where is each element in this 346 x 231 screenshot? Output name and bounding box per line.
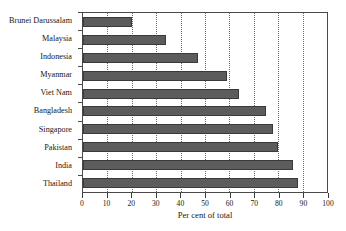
bar xyxy=(83,142,278,152)
bar-row xyxy=(83,67,327,85)
category-label: Malaysia xyxy=(0,30,76,48)
bar-row xyxy=(83,120,327,138)
value-tick-label: 90 xyxy=(300,198,308,210)
category-label: Thailand xyxy=(0,175,76,193)
plot-area xyxy=(82,12,328,193)
bar xyxy=(83,160,293,170)
bar xyxy=(83,71,227,81)
category-label: Brunei Darussalam xyxy=(0,12,76,30)
category-label: Singapore xyxy=(0,121,76,139)
category-label: Viet Nam xyxy=(0,84,76,102)
value-tick-label: 20 xyxy=(127,198,135,210)
value-tick-label: 80 xyxy=(275,198,283,210)
bar-row xyxy=(83,174,327,192)
value-tick-label: 50 xyxy=(201,198,209,210)
bar-row xyxy=(83,138,327,156)
bar xyxy=(83,124,273,134)
value-axis-title: Per cent of total xyxy=(82,210,328,220)
category-label: Myanmar xyxy=(0,66,76,84)
bar-row xyxy=(83,13,327,31)
bar-row xyxy=(83,156,327,174)
value-tick-label: 40 xyxy=(177,198,185,210)
bar-row xyxy=(83,31,327,49)
bar xyxy=(83,53,198,63)
bar xyxy=(83,89,239,99)
category-label: Bangladesh xyxy=(0,102,76,120)
value-tick-label: 60 xyxy=(226,198,234,210)
category-label: India xyxy=(0,157,76,175)
bar xyxy=(83,106,266,116)
value-tick-label: 10 xyxy=(103,198,111,210)
bar-chart: Brunei DarussalamMalaysiaIndonesiaMyanma… xyxy=(0,0,346,231)
bar xyxy=(83,178,298,188)
bar-row xyxy=(83,103,327,121)
value-tick-label: 100 xyxy=(322,198,333,210)
bar xyxy=(83,17,132,27)
value-tick-label: 0 xyxy=(80,198,84,210)
category-label: Pakistan xyxy=(0,139,76,157)
category-label: Indonesia xyxy=(0,48,76,66)
value-tick-label: 30 xyxy=(152,198,160,210)
bar-series xyxy=(83,13,327,192)
bar-row xyxy=(83,85,327,103)
value-tick-label: 70 xyxy=(250,198,258,210)
bar-row xyxy=(83,49,327,67)
bar xyxy=(83,35,166,45)
category-axis-labels: Brunei DarussalamMalaysiaIndonesiaMyanma… xyxy=(0,12,76,193)
value-axis-tick-labels: 0102030405060708090100 xyxy=(82,198,328,210)
